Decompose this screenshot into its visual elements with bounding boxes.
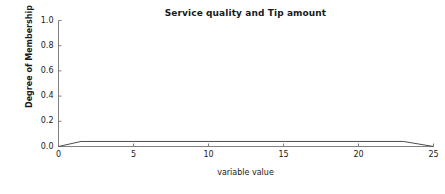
x-tick-label: 20	[344, 150, 374, 159]
x-tick-label: 0	[44, 150, 74, 159]
axis-lines	[59, 21, 434, 147]
data-series	[59, 141, 434, 146]
x-tick-label: 15	[269, 150, 299, 159]
chart-figure: Service quality and Tip amount Degree of…	[0, 0, 445, 194]
y-tick-label: 1.0	[24, 16, 54, 25]
y-tick-label: 0.8	[24, 41, 54, 50]
tick-marks	[59, 21, 434, 147]
y-tick-label: 0.4	[24, 91, 54, 100]
y-tick-label: 0.2	[24, 116, 54, 125]
x-tick-label: 10	[194, 150, 224, 159]
x-tick-label: 25	[419, 150, 445, 159]
x-tick-label: 5	[119, 150, 149, 159]
plot-area	[0, 0, 445, 194]
y-tick-label: 0.6	[24, 66, 54, 75]
